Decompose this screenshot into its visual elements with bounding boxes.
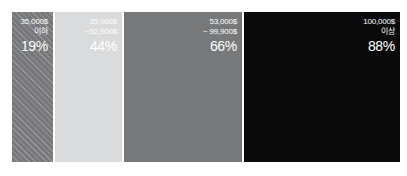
chart-segment-1[interactable]: 35,000$ ~52,900$ 44% [55, 12, 122, 162]
chart-segment-2[interactable]: 53,000$ ~ 99,900$ 66% [124, 12, 242, 162]
segment-range-line1: 35,000$ [89, 17, 117, 27]
segment-range-line2: ~52,900$ [85, 27, 117, 37]
segment-percent-value: 66% [210, 38, 237, 54]
segment-percent-value: 19% [21, 38, 48, 54]
segment-percent-value: 44% [90, 38, 117, 54]
segment-range-line1: 53,000$ [209, 17, 237, 27]
segment-percent-value: 88% [368, 38, 395, 54]
segment-range-line2: 이상 [381, 27, 395, 37]
segment-range-line2: 이하 [34, 27, 48, 37]
segment-range-line1: 100,000$ [363, 17, 395, 27]
segment-range-line2: ~ 99,900$ [203, 27, 237, 37]
chart-segment-3[interactable]: 100,000$ 이상 88% [244, 12, 400, 162]
stacked-bar-chart: 35,000$ 이하 19% 35,000$ ~52,900$ 44% 53,0… [12, 12, 400, 162]
chart-segment-0[interactable]: 35,000$ 이하 19% [12, 12, 53, 162]
segment-range-line1: 35,000$ [20, 17, 48, 27]
